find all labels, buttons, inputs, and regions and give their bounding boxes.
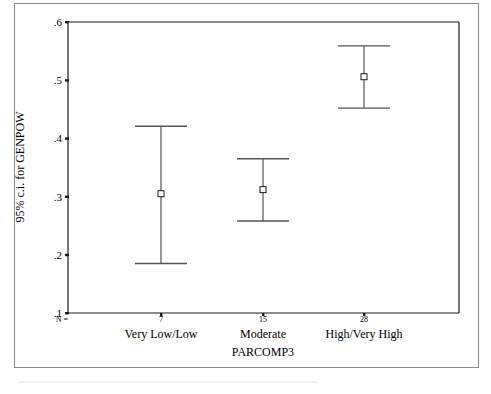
error-bar-2 xyxy=(237,159,289,221)
mean-marker-square-icon xyxy=(361,74,367,80)
x-axis-title: PARCOMP3 xyxy=(232,345,294,359)
error-bars xyxy=(135,46,390,264)
category-label: Moderate xyxy=(240,327,286,341)
n-prefix-label: N = xyxy=(56,315,69,324)
y-tick-mark xyxy=(65,79,69,81)
y-tick-label: .2 xyxy=(54,249,62,261)
y-tick-label: .5 xyxy=(54,74,63,86)
category-label: High/Very High xyxy=(326,327,403,341)
y-axis-ticks: .1.2.3.4.5.6 xyxy=(54,16,69,319)
error-bar-1 xyxy=(135,126,187,263)
y-axis-title: 95% c.i. for GENPOW xyxy=(13,111,27,223)
error-bar-chart: .1.2.3.4.5.6 7Very Low/Low15Moderate28Hi… xyxy=(0,0,491,394)
category-label: Very Low/Low xyxy=(125,327,198,341)
n-value-label: 28 xyxy=(360,315,368,324)
mean-marker-square-icon xyxy=(260,187,266,193)
y-tick-mark xyxy=(65,21,69,23)
n-value-label: 15 xyxy=(259,315,267,324)
mean-marker-square-icon xyxy=(158,191,164,197)
y-tick-mark xyxy=(65,254,69,256)
error-bar-3 xyxy=(338,46,390,108)
bleed-through-artifact xyxy=(18,378,378,386)
x-axis-ticks: 7Very Low/Low15Moderate28High/Very High xyxy=(125,313,403,341)
y-tick-mark xyxy=(65,196,69,198)
y-tick-mark xyxy=(65,137,69,139)
y-tick-label: .4 xyxy=(54,132,63,144)
y-tick-label: .6 xyxy=(54,16,63,28)
y-tick-label: .3 xyxy=(54,191,63,203)
n-value-label: 7 xyxy=(159,315,163,324)
